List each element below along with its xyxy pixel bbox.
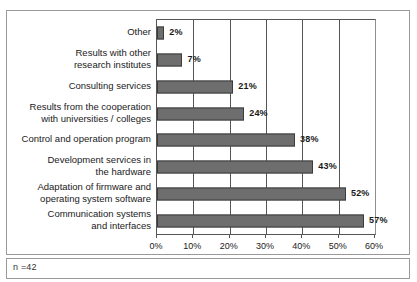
x-tick-40 [301,234,302,238]
category-label-line: the hardware [7,166,151,178]
x-tick-50 [338,234,339,238]
x-tick-label: 10% [183,241,201,251]
bar-value-label: 57% [369,215,388,225]
bar-value-label: 52% [351,188,370,198]
category-label-line: Results with other [7,47,151,59]
category-label: Results from the cooperationwith univers… [7,99,151,126]
x-tick-label: 0% [149,241,162,251]
category-label-line: research institutes [7,59,151,71]
bar-row [157,207,375,234]
bar-row [157,181,375,208]
category-label-line: Development services in [7,154,151,166]
category-label-line: and interfaces [7,220,151,232]
x-tick-30 [265,234,266,238]
x-tick-0 [156,234,157,238]
category-label-line: Control and operation program [7,133,151,145]
bar [157,187,346,200]
x-tick-label: 60% [365,241,383,251]
category-label: Adaptation of firmware andoperating syst… [7,180,151,207]
bar-row [157,127,375,154]
category-label-line: Results from the cooperation [7,101,151,113]
x-tick-60 [374,234,375,238]
category-label: Consulting services [7,73,151,100]
bar [157,80,233,93]
category-label-line: Communication systems [7,208,151,220]
x-tick-label: 30% [256,241,274,251]
bar-row [157,154,375,181]
sample-size-note: n =42 [13,262,37,272]
bar-value-label: 7% [187,54,200,64]
bar [157,134,295,147]
x-tick-label: 40% [292,241,310,251]
bar [157,54,182,67]
bar-row [157,20,375,47]
x-tick-label: 20% [220,241,238,251]
category-label-line: Consulting services [7,80,151,92]
category-label: Communication systemsand interfaces [7,206,151,233]
category-label: Control and operation program [7,126,151,153]
x-tick-10 [192,234,193,238]
bar-value-label: 24% [249,108,268,118]
plot-area [156,19,376,235]
bar [157,27,164,40]
category-label-line: Adaptation of firmware and [7,181,151,193]
bar [157,214,364,227]
bar-value-label: 21% [238,81,257,91]
category-label-line: operating system software [7,193,151,205]
x-tick-label: 50% [329,241,347,251]
sample-size-note-box: n =42 [6,258,410,279]
category-label: Results with otherresearch institutes [7,46,151,73]
category-label: Development services inthe hardware [7,153,151,180]
bar [157,161,313,174]
category-label-line: with universities / colleges [7,113,151,125]
bar-chart: OtherResults with otherresearch institut… [7,11,411,256]
bar-value-label: 38% [300,134,319,144]
category-label-line: Other [7,26,151,38]
bar-value-label: 43% [318,161,337,171]
bar-row [157,74,375,101]
figure-frame: OtherResults with otherresearch institut… [6,10,410,255]
category-label: Other [7,19,151,46]
bar-value-label: 2% [169,27,182,37]
bar [157,107,244,120]
x-tick-20 [229,234,230,238]
